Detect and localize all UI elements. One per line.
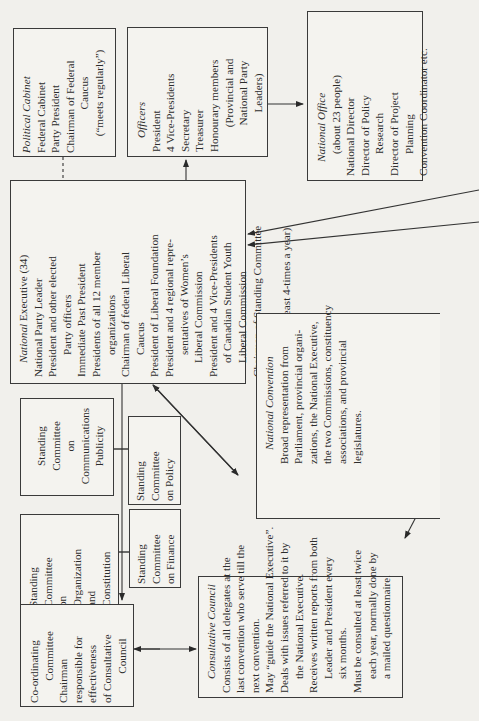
coordinating-committee-text: Co-ordinating Committee Chairman respons… (27, 609, 129, 703)
national-convention-box: National Convention Broad representation… (256, 313, 440, 519)
committee-finance-box: Standing Committee on Finance (129, 509, 181, 588)
officers-text: Officers President 4 Vice-Presidents Sec… (134, 34, 265, 152)
committee-communications-box: Standing Committee on Communications Pub… (20, 398, 114, 496)
officers-box: Officers President 4 Vice-Presidents Sec… (127, 27, 268, 157)
national-convention-title: National Convention (262, 314, 277, 464)
arrow-convention-to-consultative (405, 517, 416, 538)
political-cabinet-box: Political Cabinet Federal Cabinet Party … (13, 28, 116, 157)
national-office-text: National Office (about 23 people) Nation… (314, 18, 431, 176)
coordinating-committee-box: Co-ordinating Committee Chairman respons… (20, 604, 134, 707)
consultative-council-title: Consultative Council (204, 513, 219, 693)
committee-organization-box: Standing Committee on Organization and C… (20, 514, 119, 610)
committee-policy-text: Standing Committee on Policy (133, 421, 177, 501)
committee-organization-text: Standing Committee on Organization and C… (26, 519, 114, 607)
committee-policy-box: Standing Committee on Policy (128, 416, 181, 505)
national-convention-text: National Convention Broad representation… (262, 314, 364, 464)
national-office-box: National Office (about 23 people) Nation… (307, 11, 423, 181)
consultative-council-box: Consultative Council Consists of all del… (198, 576, 403, 698)
committee-communications-text: Standing Committee on Communications Pub… (34, 401, 107, 491)
national-executive-title: National Executive (34) (16, 187, 31, 377)
officers-title: Officers (134, 34, 149, 152)
political-cabinet-title: Political Cabinet (19, 33, 34, 153)
committee-finance-text: Standing Committee on Finance (134, 512, 178, 584)
national-office-title: National Office (314, 18, 329, 176)
national-executive-box: National Executive (34) National Party L… (10, 180, 246, 384)
national-executive-text: National Executive (34) National Party L… (16, 187, 293, 377)
consultative-council-text: Consultative Council Consists of all del… (204, 513, 394, 693)
political-cabinet-text: Political Cabinet Federal Cabinet Party … (19, 33, 107, 153)
